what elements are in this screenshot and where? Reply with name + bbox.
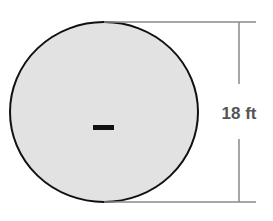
dimension-label: 18 ft [222, 104, 257, 123]
circle-shape [10, 22, 198, 202]
circle-diagram: 18 ft [0, 0, 273, 221]
center-mark [93, 125, 114, 130]
